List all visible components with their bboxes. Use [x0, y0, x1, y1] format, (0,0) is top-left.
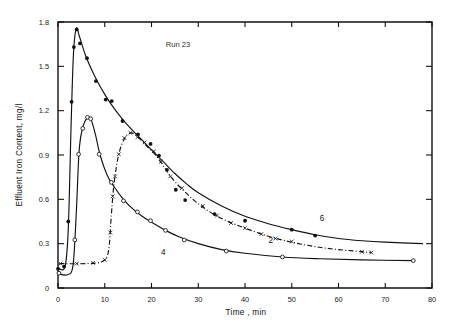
data-point-6 [66, 220, 70, 224]
data-point-6 [243, 219, 247, 223]
x-tick-label: 80 [428, 295, 436, 304]
curve-label-2: 2 [268, 236, 273, 245]
data-point-6 [75, 27, 79, 31]
data-point-6 [183, 198, 187, 202]
y-tick-label: 0 [45, 284, 49, 293]
data-point-4 [81, 126, 85, 130]
effluent-iron-content-plot: 01020304050607080 00.30.60.91.21.51.8 62… [0, 0, 455, 329]
data-point-6 [78, 42, 82, 46]
y-axis-title: Effluent Iron Content, mg/l [15, 103, 24, 206]
x-tick-label: 40 [241, 295, 249, 304]
data-point-6 [110, 99, 114, 103]
y-tick-label: 0.9 [39, 151, 49, 160]
data-point-4 [182, 238, 186, 242]
data-point-4 [77, 152, 81, 156]
x-tick-label: 30 [194, 295, 202, 304]
data-point-6 [174, 188, 178, 192]
y-tick-label: 0.6 [39, 195, 49, 204]
x-axis-title: Time , min [226, 308, 267, 317]
data-point-4 [149, 219, 153, 223]
x-tick-label: 10 [101, 295, 109, 304]
x-tick-label: 70 [381, 295, 389, 304]
data-point-6 [56, 267, 60, 271]
y-tick-label: 1.5 [39, 62, 49, 71]
data-point-4 [73, 238, 77, 242]
data-point-4 [122, 199, 126, 203]
data-point-6 [72, 45, 76, 49]
data-point-6 [85, 56, 89, 60]
x-tick-label: 60 [334, 295, 342, 304]
data-point-4 [97, 152, 101, 156]
data-point-4 [281, 255, 285, 259]
y-tick-label: 0.3 [39, 239, 49, 248]
data-point-6 [313, 234, 317, 238]
data-point-6 [149, 142, 153, 146]
data-point-6 [104, 98, 108, 102]
curve-label-6: 6 [320, 214, 325, 223]
x-tick-label: 20 [147, 295, 155, 304]
data-point-6 [121, 119, 125, 123]
data-point-4 [109, 180, 113, 184]
x-tick-label: 50 [288, 295, 296, 304]
chart-figure: 01020304050607080 00.30.60.91.21.51.8 62… [0, 0, 455, 329]
data-point-6 [70, 100, 74, 104]
data-point-6 [94, 79, 98, 83]
data-point-4 [411, 259, 415, 263]
run-annotation: Run 23 [166, 40, 191, 49]
data-point-4 [164, 228, 168, 232]
x-tick-label: 0 [56, 295, 60, 304]
data-point-4 [136, 210, 140, 214]
data-point-6 [157, 154, 161, 158]
data-point-4 [57, 271, 61, 275]
data-point-4 [224, 249, 228, 253]
y-tick-label: 1.2 [39, 106, 49, 115]
data-point-6 [165, 168, 169, 172]
data-point-4 [89, 117, 93, 121]
data-point-6 [62, 265, 66, 269]
data-point-6 [290, 228, 294, 232]
y-tick-label: 1.8 [39, 18, 49, 27]
plot-background [0, 0, 455, 329]
curve-label-4: 4 [161, 248, 166, 257]
